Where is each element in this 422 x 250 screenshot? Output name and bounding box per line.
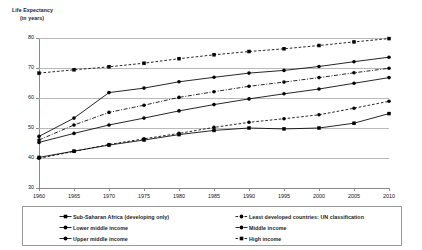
legend-marker-icon xyxy=(235,234,248,243)
marker-dot xyxy=(317,87,321,91)
legend-column-left: Sub-Saharan Africa (developing only)Lowe… xyxy=(59,211,169,244)
marker-dot xyxy=(282,117,286,121)
legend-label: Middle income xyxy=(249,225,286,231)
x-tick xyxy=(284,188,285,191)
marker-dot xyxy=(352,82,356,86)
legend-marker-icon xyxy=(59,234,72,243)
x-tick xyxy=(354,188,355,191)
x-axis-tick-label: 2005 xyxy=(339,194,369,199)
chart-screenshot: Life Expectancy (in years) 304050607080 … xyxy=(0,0,422,250)
x-tick xyxy=(39,188,40,191)
marker-dot xyxy=(177,80,181,84)
marker-square xyxy=(247,126,251,130)
x-axis-tick-label: 2000 xyxy=(304,194,334,199)
marker-dot xyxy=(142,137,146,141)
x-tick xyxy=(214,188,215,191)
x-axis-tick-label: 1990 xyxy=(234,194,264,199)
marker-dot xyxy=(387,55,391,59)
marker-square xyxy=(352,121,356,125)
marker-dot xyxy=(247,85,251,89)
marker-dot xyxy=(247,97,251,101)
legend-item[interactable]: Lower middle income xyxy=(59,222,169,233)
x-axis-tick-label: 2010 xyxy=(374,194,404,199)
marker-dot xyxy=(387,76,391,80)
series-lines xyxy=(39,38,389,188)
x-tick xyxy=(74,188,75,191)
marker-dot xyxy=(282,80,286,84)
axis-title-line2: (in years) xyxy=(12,15,53,23)
y-axis-tick-label: 40 xyxy=(12,155,34,160)
marker-dot xyxy=(142,103,146,107)
marker-dot xyxy=(37,135,41,139)
x-axis-tick-label: 1965 xyxy=(59,194,89,199)
marker-dot xyxy=(107,143,111,147)
y-axis-tick-label: 60 xyxy=(12,95,34,100)
y-axis-tick-label: 70 xyxy=(12,65,34,70)
marker-square xyxy=(72,68,76,72)
x-tick xyxy=(319,188,320,191)
legend-item[interactable]: Sub-Saharan Africa (developing only) xyxy=(59,211,169,222)
marker-dot xyxy=(247,121,251,125)
y-axis-tick-label: 50 xyxy=(12,125,34,130)
x-tick xyxy=(179,188,180,191)
marker-square xyxy=(352,40,356,44)
x-axis-tick-label: 1985 xyxy=(199,194,229,199)
marker-dot xyxy=(177,109,181,113)
legend-marker-icon xyxy=(59,223,72,232)
marker-square xyxy=(387,37,391,41)
marker-dot xyxy=(107,91,111,95)
x-axis-tick-label: 1980 xyxy=(164,194,194,199)
marker-square xyxy=(212,53,216,57)
series-line xyxy=(39,114,389,158)
legend-marker-icon xyxy=(235,212,248,221)
legend-column-right: Least developed countries: UN classifica… xyxy=(235,211,364,244)
marker-square xyxy=(247,50,251,54)
marker-square xyxy=(317,44,321,48)
legend-item[interactable]: Upper middle income xyxy=(59,233,169,244)
marker-square xyxy=(37,71,41,75)
x-axis-tick-label: 1995 xyxy=(269,194,299,199)
marker-dot xyxy=(317,65,321,69)
marker-dot xyxy=(212,126,216,130)
marker-dot xyxy=(72,116,76,120)
x-tick xyxy=(249,188,250,191)
marker-square xyxy=(387,112,391,116)
y-axis-tick-label: 80 xyxy=(12,35,34,40)
marker-dot xyxy=(282,69,286,73)
plot-area: 304050607080 196019651970197519801985199… xyxy=(39,38,389,188)
legend-item[interactable]: Middle income xyxy=(235,222,364,233)
x-tick xyxy=(389,188,390,191)
marker-dot xyxy=(37,157,41,161)
marker-dot xyxy=(72,132,76,136)
marker-dot xyxy=(177,96,181,100)
legend-item[interactable]: High income xyxy=(235,233,364,244)
legend-marker-icon xyxy=(235,223,248,232)
marker-dot xyxy=(387,100,391,104)
marker-square xyxy=(177,57,181,61)
marker-square xyxy=(282,127,286,130)
x-axis-tick-label: 1975 xyxy=(129,194,159,199)
chart-legend: Sub-Saharan Africa (developing only)Lowe… xyxy=(22,206,402,246)
series-5 xyxy=(37,37,391,75)
marker-square xyxy=(317,126,321,130)
marker-dot xyxy=(212,103,216,107)
marker-dot xyxy=(212,90,216,94)
legend-label: High income xyxy=(249,236,281,242)
legend-marker-icon xyxy=(59,212,72,221)
marker-dot xyxy=(317,76,321,80)
x-axis-tick-label: 1970 xyxy=(94,194,124,199)
axis-title-line1: Life Expectancy xyxy=(12,7,53,13)
marker-dot xyxy=(177,132,181,136)
legend-item[interactable]: Least developed countries: UN classifica… xyxy=(235,211,364,222)
marker-square xyxy=(107,65,111,69)
series-2 xyxy=(37,76,391,144)
x-axis-tick-label: 1960 xyxy=(24,194,54,199)
marker-dot xyxy=(352,60,356,64)
marker-dot xyxy=(352,71,356,75)
x-tick xyxy=(109,188,110,191)
marker-dot xyxy=(142,116,146,120)
marker-dot xyxy=(107,123,111,127)
marker-dot xyxy=(72,150,76,154)
legend-label: Sub-Saharan Africa (developing only) xyxy=(73,214,169,220)
marker-dot xyxy=(317,113,321,117)
